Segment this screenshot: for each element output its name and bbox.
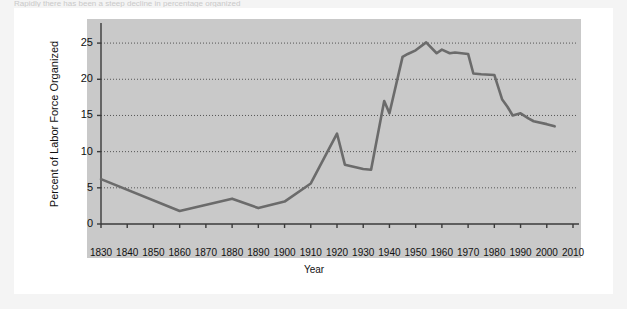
page-canvas: Rapidly there has been a steep decline i… [0, 0, 627, 309]
plot-area [87, 19, 581, 258]
chart-figure: Percent of Labor Force Organized Year 05… [30, 14, 598, 282]
x-axis-title: Year [30, 264, 598, 275]
data-series-line [101, 42, 555, 211]
line-chart-svg [87, 19, 581, 258]
gridlines [101, 43, 577, 188]
axis-lines [101, 23, 579, 224]
figure-sheet: Percent of Labor Force Organized Year 05… [14, 8, 613, 294]
